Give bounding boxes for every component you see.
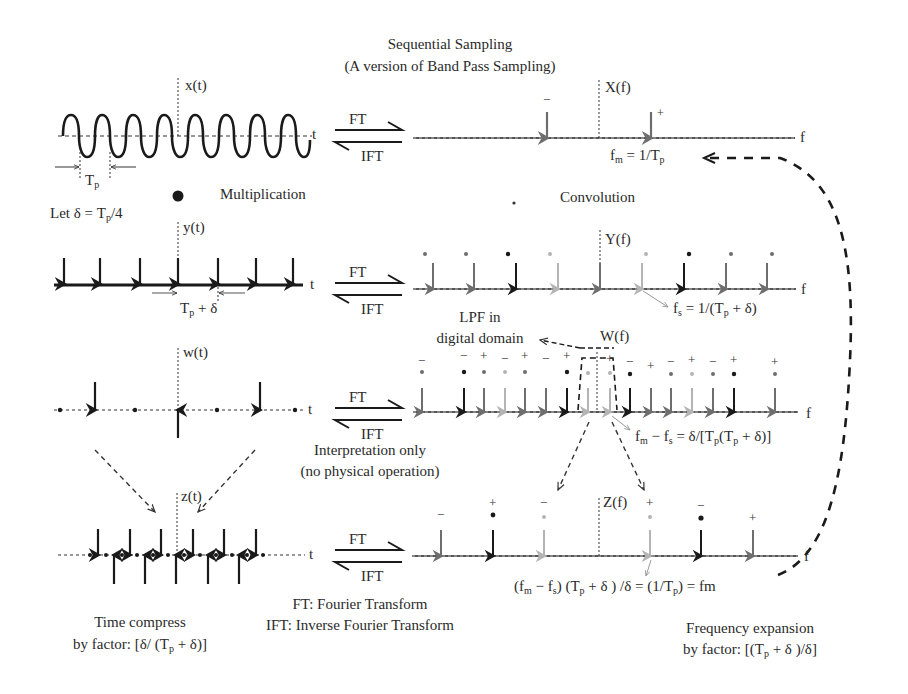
title-line2: (A version of Band Pass Sampling) <box>270 58 630 75</box>
svg-text:+: + <box>480 348 487 363</box>
expand-line2: by factor: [(Tp + δ )/δ] <box>640 641 860 660</box>
svg-text:+: + <box>647 358 654 373</box>
compress-line2: by factor: [δ/ (Tp + δ)] <box>20 636 260 655</box>
title-line1: Sequential Sampling <box>300 36 600 53</box>
svg-text:+: + <box>646 495 653 510</box>
t-axis-label-2: t <box>310 276 314 293</box>
delta-definition: Let δ = Tp/4 <box>50 205 123 224</box>
t-axis-label-3: t <box>308 401 312 418</box>
svg-text:−: − <box>543 92 550 107</box>
svg-text:+: + <box>489 495 496 510</box>
ift-label-3: IFT <box>361 426 384 443</box>
svg-text:−: − <box>460 348 467 363</box>
w-t-plot <box>54 348 303 512</box>
svg-text:+: + <box>688 352 695 367</box>
svg-text:−: − <box>709 354 716 369</box>
f-axis-label-1: f <box>800 129 805 146</box>
f-axis-label-3: f <box>806 405 811 422</box>
ft-label-3: FT <box>349 389 367 406</box>
f-axis-label-4: f <box>804 548 809 565</box>
x-t-label: x(t) <box>185 77 207 94</box>
svg-text:−: − <box>542 351 549 366</box>
interp-line1: Interpretation only <box>270 442 470 459</box>
W-f-label: W(f) <box>600 328 629 345</box>
z-t-label: z(t) <box>181 488 202 505</box>
multiplication-symbol <box>173 191 184 202</box>
svg-text:−: − <box>697 498 704 513</box>
legend-ift: IFT: Inverse Fourier Transform <box>230 617 490 634</box>
fs-label: fs = 1/(Tp + δ) <box>673 300 757 319</box>
ft-label-2: FT <box>349 264 367 281</box>
f-axis-label-2: f <box>801 281 806 298</box>
svg-text:+: + <box>771 354 778 369</box>
t-axis-label-1: t <box>312 126 316 143</box>
svg-text:−: − <box>418 353 425 368</box>
convolution-label: Convolution <box>560 189 635 206</box>
svg-text:+: + <box>730 352 737 367</box>
convolution-symbol <box>512 201 515 204</box>
y-t-plot <box>54 222 303 302</box>
Z-f-label: Z(f) <box>603 494 627 511</box>
ift-label-4: IFT <box>361 568 384 585</box>
t-axis-label-4: t <box>309 546 313 563</box>
fm-minus-fs-label: fm − fs = δ/[Tp(Tp + δ)] <box>635 428 771 447</box>
lpf-line2: digital domain <box>420 330 540 347</box>
svg-text:−: − <box>501 351 508 366</box>
legend-ft: FT: Fourier Transform <box>250 596 470 613</box>
w-t-label: w(t) <box>183 344 208 361</box>
sample-spacing-label: Tp + δ <box>180 300 217 319</box>
svg-text:+: + <box>521 348 528 363</box>
svg-text:−: − <box>437 507 444 522</box>
ift-label-1: IFT <box>361 148 384 165</box>
svg-text:+: + <box>606 351 613 366</box>
y-t-label: y(t) <box>183 219 205 236</box>
multiplication-label: Multiplication <box>220 186 306 203</box>
svg-text:+: + <box>657 106 664 120</box>
fm-label: fm = 1/Tp <box>610 147 665 166</box>
expand-line1: Frequency expansion <box>650 620 850 637</box>
ft-label-4: FT <box>349 531 367 548</box>
svg-text:−: − <box>667 354 674 369</box>
ft-label-1: FT <box>349 111 367 128</box>
svg-text:+: + <box>749 510 756 525</box>
svg-text:−: − <box>540 495 547 510</box>
svg-text:−: − <box>626 354 633 369</box>
z-t-plot <box>58 493 305 584</box>
interp-line2: (no physical operation) <box>270 463 470 480</box>
Y-f-label: Y(f) <box>605 231 631 248</box>
compress-line1: Time compress <box>40 614 240 631</box>
W-f-plot: − −+ −+ −+ + −+ −+ −+ + <box>413 340 798 490</box>
svg-text:+: + <box>563 348 570 363</box>
result-equation: (fm − fs) (Tp + δ ) /δ = (1/Tp) = fm <box>514 578 716 597</box>
lpf-line1: LPF in <box>430 309 530 326</box>
X-f-label: X(f) <box>605 79 631 96</box>
ift-label-2: IFT <box>361 301 384 318</box>
ft-ift-arrows <box>335 122 402 570</box>
tp-label: Tp <box>85 172 99 191</box>
x-t-plot <box>55 78 312 178</box>
